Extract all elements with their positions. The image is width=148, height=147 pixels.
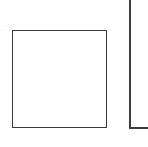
cropped-corner-vertical-edge	[129, 0, 131, 129]
compression-speckle	[8, 24, 10, 25]
compression-speckle	[3, 29, 4, 30]
square-outline-shape	[12, 30, 107, 128]
image-canvas	[0, 0, 148, 147]
compression-speckle	[5, 26, 7, 27]
cropped-corner-horizontal-edge	[129, 127, 148, 129]
compression-speckle	[10, 27, 11, 29]
